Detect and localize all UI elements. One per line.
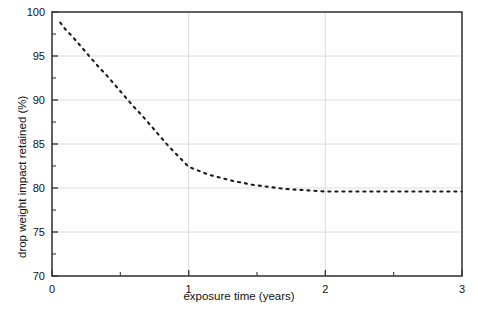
svg-text:95: 95 <box>33 50 45 62</box>
chart-figure: 707580859095100 0123 exposure time (year… <box>0 0 478 313</box>
svg-text:85: 85 <box>33 138 45 150</box>
svg-text:75: 75 <box>33 226 45 238</box>
svg-text:100: 100 <box>27 6 45 18</box>
svg-text:80: 80 <box>33 182 45 194</box>
plot-area: 707580859095100 0123 <box>0 0 478 313</box>
y-axis-title: drop weight impact retained (%) <box>16 96 28 258</box>
svg-text:70: 70 <box>33 270 45 282</box>
svg-text:90: 90 <box>33 94 45 106</box>
y-axis-tick-labels: 707580859095100 <box>27 6 45 282</box>
x-axis-title: exposure time (years) <box>0 290 478 302</box>
